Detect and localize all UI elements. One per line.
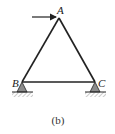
node-label-a: A (56, 4, 64, 16)
member-ab (22, 18, 59, 82)
node-label-b: B (12, 77, 19, 89)
node-label-c: C (98, 77, 106, 89)
member-ac (59, 18, 95, 82)
truss-diagram: A B C (b) (0, 0, 115, 134)
figure-caption: (b) (52, 114, 65, 127)
